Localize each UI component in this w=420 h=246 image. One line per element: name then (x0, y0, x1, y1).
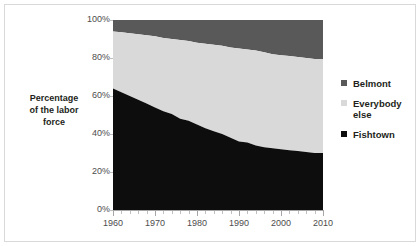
x-axis-tick-2010: 2010 (303, 218, 343, 229)
y-axis-tick-20: 20% (72, 167, 110, 176)
x-tick-mark-1962 (121, 211, 122, 214)
x-tick-mark-2004 (298, 211, 299, 214)
x-tick-mark-2010 (323, 211, 324, 216)
legend-swatch-icon (341, 80, 347, 86)
y-axis-tick-100: 100% (72, 15, 110, 24)
x-tick-mark-1970 (155, 211, 156, 216)
x-axis-tick-1990: 1990 (219, 218, 259, 229)
x-axis-tick-1960: 1960 (93, 218, 133, 229)
x-tick-mark-1998 (273, 211, 274, 214)
x-tick-mark-1964 (130, 211, 131, 214)
x-tick-mark-1982 (205, 211, 206, 214)
legend-label: Everybody else (353, 98, 417, 120)
legend-swatch-icon (341, 100, 347, 106)
chart-figure: Percentage of the labor force 100%80%60%… (0, 0, 420, 246)
y-axis-tick-60: 60% (72, 91, 110, 100)
x-tick-mark-1986 (222, 211, 223, 214)
x-tick-mark-1966 (138, 211, 139, 214)
x-tick-mark-1992 (247, 211, 248, 214)
x-tick-mark-1974 (172, 211, 173, 214)
x-tick-mark-2008 (315, 211, 316, 214)
y-axis-tick-80: 80% (72, 53, 110, 62)
x-axis-tick-labels: 196019701980199020002010 (0, 218, 420, 232)
x-tick-mark-2000 (281, 211, 282, 216)
stacked-area-plot (113, 20, 323, 210)
legend-item-everybody-else[interactable]: Everybody else (341, 98, 417, 120)
y-axis-tick-40: 40% (72, 129, 110, 138)
x-axis-tick-1980: 1980 (177, 218, 217, 229)
x-axis-tick-2000: 2000 (261, 218, 301, 229)
x-axis-tick-1970: 1970 (135, 218, 175, 229)
x-tick-mark-1978 (189, 211, 190, 214)
x-tick-mark-1968 (147, 211, 148, 214)
x-tick-mark-1984 (214, 211, 215, 214)
x-tick-mark-1976 (180, 211, 181, 214)
x-tick-mark-1990 (239, 211, 240, 216)
x-tick-mark-1972 (163, 211, 164, 214)
chart-legend: BelmontEverybody elseFishtown (341, 78, 417, 149)
legend-label: Belmont (353, 78, 391, 89)
x-tick-mark-1988 (231, 211, 232, 214)
x-tick-mark-1980 (197, 211, 198, 216)
x-axis-tick-marks (0, 211, 420, 216)
legend-item-fishtown[interactable]: Fishtown (341, 129, 417, 140)
x-tick-mark-1960 (113, 211, 114, 216)
x-tick-mark-1996 (264, 211, 265, 214)
x-tick-mark-1994 (256, 211, 257, 214)
plot-area (113, 20, 323, 210)
legend-item-belmont[interactable]: Belmont (341, 78, 417, 89)
x-tick-mark-2002 (289, 211, 290, 214)
legend-label: Fishtown (353, 129, 395, 140)
y-axis-tick-labels: 100%80%60%40%20%0% (72, 0, 110, 246)
x-tick-mark-2006 (306, 211, 307, 214)
legend-swatch-icon (341, 131, 347, 137)
